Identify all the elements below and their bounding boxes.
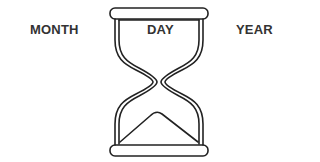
day-label: DAY bbox=[147, 22, 174, 38]
